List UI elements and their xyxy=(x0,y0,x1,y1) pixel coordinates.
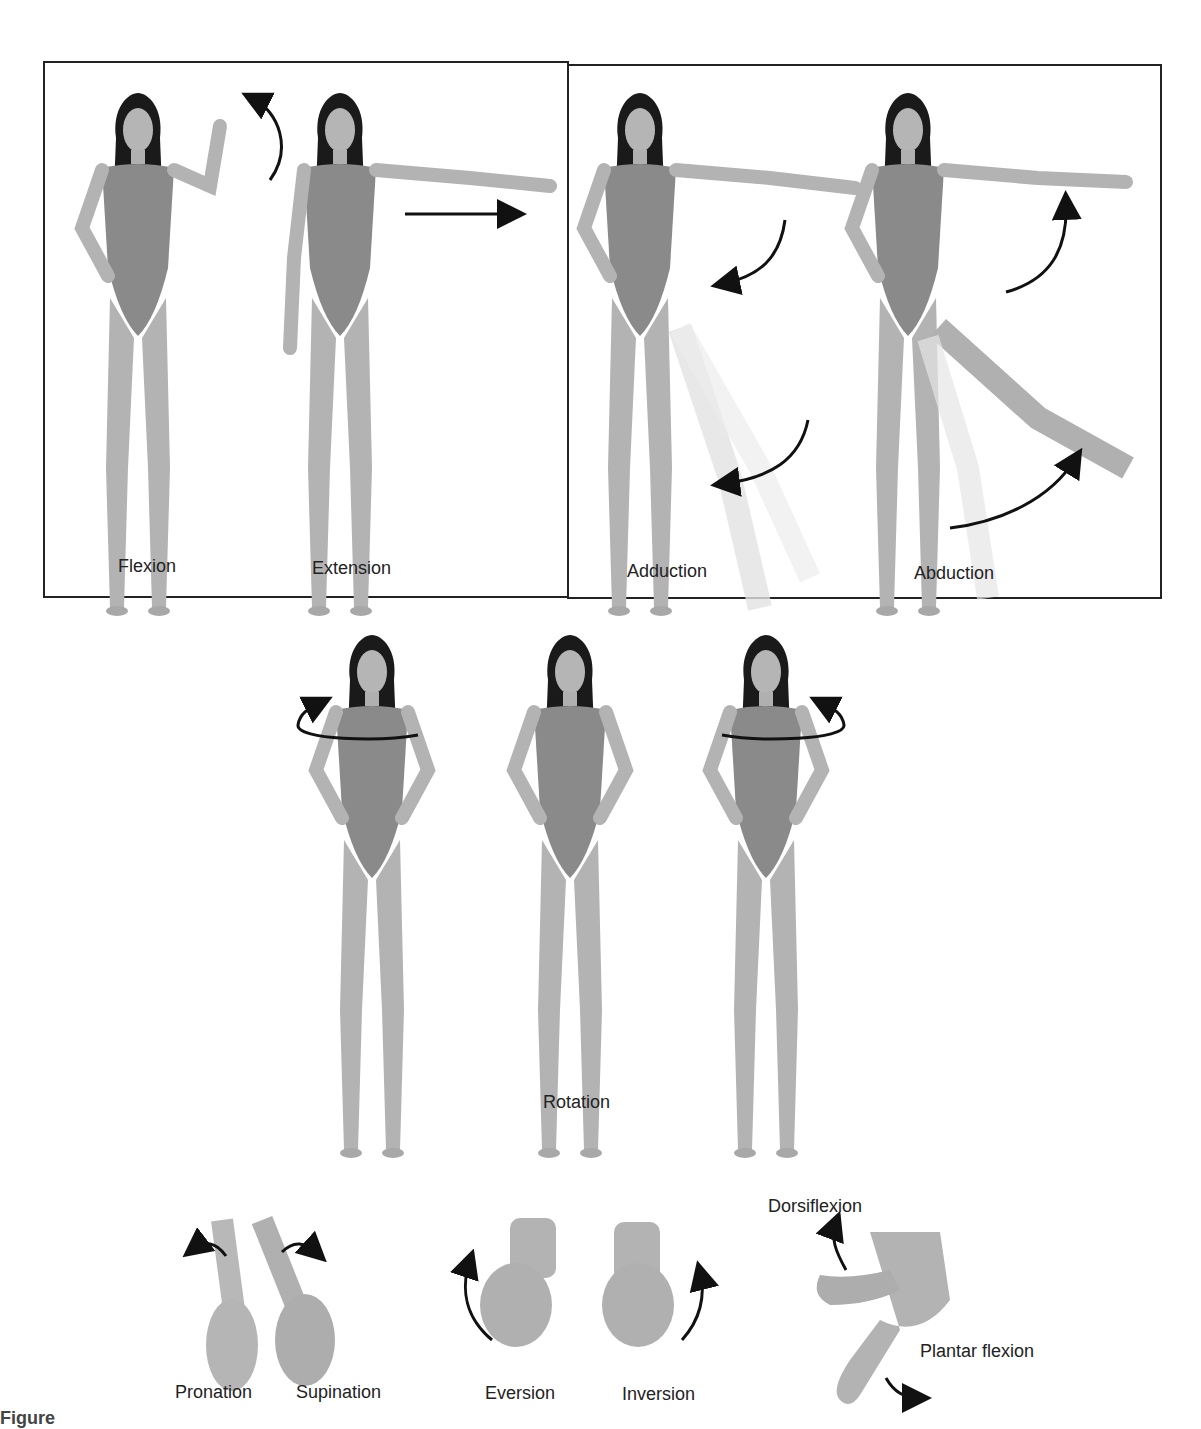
flexion-arrow-icon xyxy=(252,98,281,180)
label-adduction: Adduction xyxy=(627,561,707,582)
figure-abduction xyxy=(852,93,1128,616)
abduction-arm-arrow-icon xyxy=(1006,202,1066,292)
label-extension: Extension xyxy=(312,558,391,579)
figure-caption: Figure xyxy=(0,1408,55,1429)
plantar-flexion-arrow-icon xyxy=(886,1378,920,1398)
figure-ankle-feet xyxy=(817,1232,950,1404)
label-plantar-flexion: Plantar flexion xyxy=(920,1341,1034,1362)
label-pronation: Pronation xyxy=(175,1382,252,1403)
label-supination: Supination xyxy=(296,1382,381,1403)
figure-rotation-right xyxy=(710,635,822,1158)
figure-rotation-left xyxy=(316,635,428,1158)
figure-flexion xyxy=(82,93,220,616)
inversion-arrow-icon xyxy=(682,1272,702,1340)
label-rotation: Rotation xyxy=(543,1092,610,1113)
label-dorsiflexion: Dorsiflexion xyxy=(768,1196,862,1217)
figure-extension xyxy=(290,93,550,616)
figure-inversion-foot xyxy=(602,1222,674,1347)
dorsiflexion-arrow-icon xyxy=(834,1222,846,1270)
supination-arrow-icon xyxy=(282,1244,318,1254)
label-flexion: Flexion xyxy=(118,556,176,577)
figure-rotation-center xyxy=(514,635,626,1158)
adduction-arm-arrow-icon xyxy=(722,220,785,284)
figure-eversion-foot xyxy=(480,1218,556,1347)
label-inversion: Inversion xyxy=(622,1384,695,1405)
figure-adduction xyxy=(584,93,855,616)
label-abduction: Abduction xyxy=(914,563,994,584)
figure-forearms-hands xyxy=(206,1220,335,1391)
label-eversion: Eversion xyxy=(485,1383,555,1404)
